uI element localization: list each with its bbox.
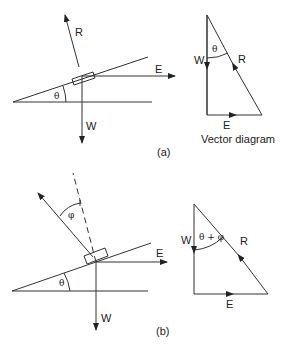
theta-arc	[207, 53, 228, 58]
reaction-force-arrow-R	[65, 15, 79, 67]
force-label-W: W	[86, 120, 97, 132]
figure-b-label: (b)	[156, 325, 169, 337]
incline-surface-line	[13, 57, 148, 102]
incline-surface-line	[12, 243, 151, 291]
force-label-E: E	[156, 247, 163, 259]
theta-label: θ	[212, 44, 217, 54]
theta-label: θ	[59, 278, 64, 288]
vector-label-W: W	[181, 234, 192, 246]
vector-label-R: R	[240, 235, 248, 247]
inclined-plane-force-diagrams: θ R E W (a) θ W R E Vector diagram θ φ E	[0, 0, 283, 345]
phi-label: φ	[68, 210, 74, 220]
vector-R	[207, 15, 262, 115]
vector-R	[194, 204, 268, 294]
figure-b-incline: θ φ E W (b)	[12, 173, 169, 337]
normal-dashed-line	[73, 173, 96, 262]
figure-b-vector-diagram: θ + φ W R E	[181, 204, 268, 310]
figure-a-vector-diagram: θ W R E Vector diagram	[194, 15, 275, 145]
theta-arc	[63, 86, 66, 102]
vector-label-R: R	[238, 53, 246, 65]
vector-label-E: E	[226, 298, 233, 310]
reaction-force-arrow-R	[38, 193, 93, 257]
theta-arc	[64, 273, 70, 291]
force-label-R: R	[75, 26, 83, 38]
theta-plus-phi-label: θ + φ	[199, 232, 224, 242]
force-label-W: W	[101, 312, 112, 324]
figure-a-label: (a)	[157, 146, 170, 158]
figure-a-incline: θ R E W (a)	[13, 15, 175, 158]
vector-label-E: E	[223, 119, 230, 131]
force-label-E: E	[155, 63, 162, 75]
theta-label: θ	[54, 91, 59, 101]
vector-diagram-caption: Vector diagram	[201, 133, 275, 145]
vector-label-W: W	[194, 54, 205, 66]
